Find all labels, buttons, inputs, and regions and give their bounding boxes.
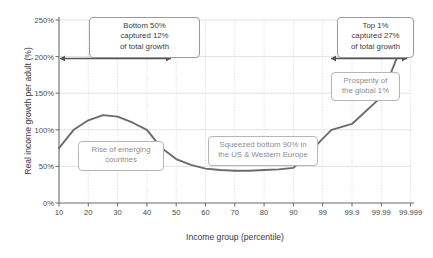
prosperity-global-1-callout: Prosperity of the global 1% [331, 72, 400, 101]
callout-line: Squeezed bottom 90% in [213, 140, 313, 150]
y-tick-label: 50% [39, 162, 54, 171]
callout-line: countries [83, 155, 159, 165]
x-tick-label: 40 [143, 208, 151, 217]
x-tick-label: 60 [201, 208, 209, 217]
x-tick-label: 99.9 [345, 208, 360, 217]
callout-line: the global 1% [336, 86, 395, 96]
callout-line: Rise of emerging [83, 145, 159, 155]
y-tick-label: 250% [35, 16, 54, 25]
callout-line: Prosperity of [336, 76, 395, 86]
callout-line: captured 27% [342, 31, 409, 41]
x-tick-label: 80 [260, 208, 268, 217]
rise-of-emerging-countries-callout: Rise of emerging countries [78, 141, 164, 171]
x-tick-label: 90 [289, 208, 297, 217]
bottom-50-callout: Bottom 50% captured 12% of total growth [89, 17, 200, 58]
squeezed-bottom-90-callout: Squeezed bottom 90% in the US & Western … [208, 136, 318, 166]
callout-line: the US & Western Europe [213, 150, 313, 160]
callout-line: Bottom 50% [94, 21, 195, 31]
callout-line: of total growth [342, 42, 409, 52]
x-tick-label: 50 [172, 208, 180, 217]
callout-line: Top 1% [342, 21, 409, 31]
y-tick-label: 150% [35, 89, 54, 98]
x-tick-label: 99.999 [399, 208, 422, 217]
y-tick-label: 100% [35, 125, 54, 134]
y-tick-label: 200% [35, 52, 54, 61]
x-tick-label: 30 [113, 208, 121, 217]
x-tick-label: 99 [318, 208, 326, 217]
x-axis-title: Income group (percentile) [59, 232, 411, 242]
x-tick-label: 70 [231, 208, 239, 217]
x-tick-label: 99.99 [372, 208, 391, 217]
y-tick-label: 0% [43, 199, 54, 208]
y-axis-title: Real income growth per adult (%) [23, 36, 33, 186]
top-1-callout: Top 1% captured 27% of total growth [337, 17, 414, 58]
callout-line: captured 12% [94, 31, 195, 41]
elephant-curve-chart: Real income growth per adult (%) Income … [0, 0, 433, 258]
x-tick-label: 20 [84, 208, 92, 217]
x-tick-label: 10 [55, 208, 63, 217]
callout-line: of total growth [94, 42, 195, 52]
